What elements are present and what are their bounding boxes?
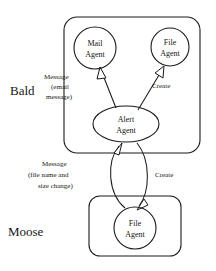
edge-label-alert-to-file-moose-line1: Create bbox=[155, 171, 173, 179]
file-agent-bald-circle[interactable] bbox=[151, 28, 189, 66]
file-agent-bald-label-line2: Agent bbox=[160, 49, 180, 58]
node-mail-agent[interactable]: Mail Agent bbox=[74, 27, 116, 69]
edge-label-alert-to-file-bald-line1: Create bbox=[152, 82, 170, 90]
node-file-agent-bald[interactable]: File Agent bbox=[151, 28, 189, 66]
container-moose: Moose bbox=[8, 196, 181, 256]
file-agent-moose-label-line2: Agent bbox=[125, 230, 145, 239]
mail-agent-label-line1: Mail bbox=[87, 39, 103, 48]
edge-label-file-moose-to-alert-line1: Message bbox=[42, 160, 67, 168]
mail-agent-label-line2: Agent bbox=[85, 50, 105, 59]
node-alert-agent[interactable]: Alert Agent bbox=[93, 106, 159, 142]
edge-label-alert-to-mail-line3: message) bbox=[46, 93, 73, 101]
edge-alert-to-file-bald-line bbox=[138, 70, 162, 110]
edge-label-alert-to-mail-line1: Message bbox=[44, 73, 69, 81]
edge-label-file-moose-to-alert-line2: (file name and bbox=[28, 171, 69, 179]
alert-agent-label-line1: Alert bbox=[118, 115, 135, 124]
bald-host-label: Bald bbox=[10, 83, 35, 98]
edge-alert-to-mail bbox=[97, 67, 116, 108]
diagram-canvas: Bald Moose bbox=[0, 0, 216, 271]
alert-agent-ellipse[interactable] bbox=[93, 106, 159, 142]
edge-alert-to-file-bald-arrowhead bbox=[155, 66, 164, 78]
file-agent-moose-label-line1: File bbox=[129, 219, 142, 228]
edge-file-moose-to-alert-line bbox=[111, 146, 125, 208]
edge-label-file-moose-to-alert: Message (file name and size change) bbox=[28, 160, 73, 190]
file-agent-bald-label-line1: File bbox=[164, 38, 177, 47]
moose-host-label: Moose bbox=[8, 224, 44, 239]
file-agent-moose-circle[interactable] bbox=[114, 207, 156, 249]
edge-label-alert-to-file-bald: Create bbox=[152, 82, 170, 90]
mail-agent-circle[interactable] bbox=[74, 27, 116, 69]
edge-label-alert-to-mail-line2: (email bbox=[51, 83, 69, 91]
edge-label-alert-to-file-moose: Create bbox=[155, 171, 173, 179]
alert-agent-label-line2: Agent bbox=[116, 126, 136, 135]
node-file-agent-moose[interactable]: File Agent bbox=[114, 207, 156, 249]
edge-label-alert-to-mail: Message (email message) bbox=[44, 73, 73, 101]
agent-interaction-diagram: Bald Moose bbox=[0, 0, 216, 271]
edge-label-file-moose-to-alert-line3: size change) bbox=[38, 182, 73, 190]
